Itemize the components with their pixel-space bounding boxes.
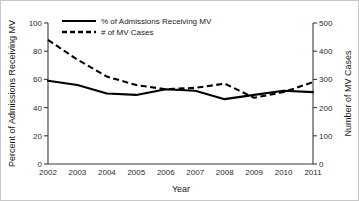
x-tick-label-2008: 2008	[216, 168, 234, 177]
x-tick-label-2011: 2011	[304, 168, 322, 177]
left-tick-label-40: 40	[33, 104, 42, 113]
left-axis-ticks: 0 20 40 60 80 100	[29, 19, 48, 169]
x-tick-label-2007: 2007	[186, 168, 204, 177]
x-tick-label-2004: 2004	[98, 168, 116, 177]
left-tick-label-20: 20	[33, 132, 42, 141]
x-tick-label-2002: 2002	[39, 168, 57, 177]
x-tick-label-2009: 2009	[245, 168, 263, 177]
chart-figure: 0 20 40 60 80 100 0 100 200 300 400 500 …	[0, 0, 359, 201]
right-tick-label-200: 200	[319, 104, 333, 113]
chart-plot-area: 0 20 40 60 80 100 0 100 200 300 400 500 …	[1, 1, 359, 201]
series-line-percent-admissions	[48, 81, 313, 99]
x-tick-label-2003: 2003	[69, 168, 87, 177]
left-tick-label-100: 100	[29, 19, 43, 28]
left-axis-title: Percent of Admissions Receiving MV	[7, 20, 17, 167]
right-axis-title: Number of MV Cases	[343, 50, 353, 137]
chart-legend: % of Admissions Receiving MV # of MV Cas…	[62, 17, 212, 37]
right-axis-ticks: 0 100 200 300 400 500	[313, 19, 333, 169]
left-tick-label-80: 80	[33, 47, 42, 56]
x-axis-title: Year	[172, 184, 190, 194]
bottom-axis-ticks: 2002 2003 2004 2005 2006 2007 2008 2009 …	[39, 168, 322, 177]
legend-label-mv-cases: # of MV Cases	[101, 28, 153, 37]
right-tick-label-400: 400	[319, 47, 333, 56]
right-tick-label-500: 500	[319, 19, 333, 28]
legend-label-percent-admissions: % of Admissions Receiving MV	[101, 17, 212, 26]
x-tick-label-2006: 2006	[157, 168, 175, 177]
x-tick-label-2010: 2010	[275, 168, 293, 177]
x-tick-label-2005: 2005	[127, 168, 145, 177]
left-tick-label-60: 60	[33, 75, 42, 84]
right-tick-label-100: 100	[319, 132, 333, 141]
right-tick-label-300: 300	[319, 75, 333, 84]
